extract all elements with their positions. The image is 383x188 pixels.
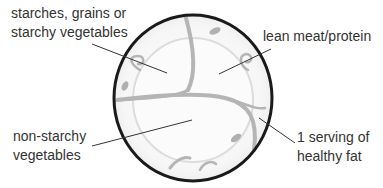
label-starches-line-1: starches, grains or [11, 4, 128, 23]
label-non-starchy-line-1: non-starchy [13, 127, 86, 146]
label-non-starchy: non-starchy vegetables [13, 127, 86, 165]
label-protein-line-1: lean meat/protein [263, 27, 371, 46]
label-starches: starches, grains or starchy vegetables [11, 4, 128, 42]
label-fat-line-2: healthy fat [297, 147, 369, 166]
label-fat-line-1: 1 serving of [297, 128, 369, 147]
label-starches-line-2: starchy vegetables [11, 23, 128, 42]
label-protein: lean meat/protein [263, 27, 371, 46]
label-non-starchy-line-2: vegetables [13, 146, 86, 165]
label-fat: 1 serving of healthy fat [297, 128, 369, 166]
